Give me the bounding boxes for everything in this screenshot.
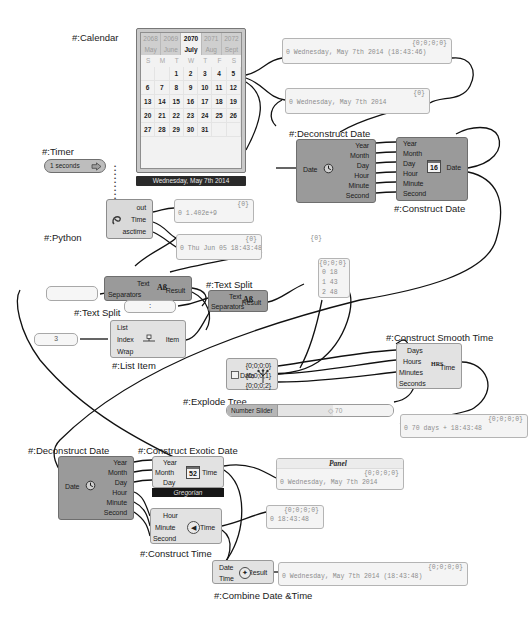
li-output-item[interactable]: Item	[166, 336, 179, 343]
explode-tree-node[interactable]: Data {0;0;0;0} {0;0;0;1} {0;0;0;2}	[226, 358, 278, 390]
ced-input-month[interactable]: Month	[155, 469, 174, 476]
cst-input-minutes[interactable]: Minutes	[399, 369, 423, 376]
deconstruct-date-bottom-node[interactable]: Date Year Month Day Hour Minute Second	[58, 456, 134, 520]
calendar-day-4[interactable]: 4	[212, 67, 226, 81]
calendar-day-12[interactable]: 12	[227, 81, 241, 95]
calendar-month-July[interactable]: July	[181, 44, 201, 55]
calendar-day-22[interactable]: 22	[170, 109, 184, 123]
ced-input-year[interactable]: Year	[163, 459, 177, 466]
ct-input-second[interactable]: Second	[153, 535, 176, 542]
ddb-output-day[interactable]: Day	[115, 479, 127, 486]
calendar-day-26[interactable]: 26	[227, 109, 241, 123]
calendar-day-27[interactable]: 27	[141, 123, 155, 137]
calendar-year-2072[interactable]: 2072	[222, 33, 241, 44]
list-item-node[interactable]: List Index Wrap Item	[110, 320, 186, 358]
cdt-input-time[interactable]: Time	[219, 575, 234, 582]
calendar-day-23[interactable]: 23	[184, 109, 198, 123]
calendar-month-June[interactable]: June	[161, 44, 181, 55]
ct-input-minute[interactable]: Minute	[155, 524, 175, 531]
calendar-day-17[interactable]: 17	[198, 95, 212, 109]
calendar-type-strip[interactable]: Gregorian	[152, 488, 224, 497]
number-slider-track[interactable]: ◇ 70	[278, 405, 393, 416]
calendar-day-2[interactable]: 2	[184, 67, 198, 81]
calendar-day-20[interactable]: 20	[141, 109, 155, 123]
calendar-year-2069[interactable]: 2069	[161, 33, 181, 44]
number-slider[interactable]: Number Slider ◇ 70	[226, 404, 394, 417]
grasshopper-canvas[interactable]: #:Calendar 20682069207020712072 MayJuneJ…	[0, 0, 531, 628]
cd-input-hour[interactable]: Hour	[403, 170, 418, 177]
et-output-2[interactable]: {0;0;0;2}	[246, 382, 271, 389]
calendar-day-13[interactable]: 13	[141, 95, 155, 109]
calendar-year-2071[interactable]: 2071	[202, 33, 222, 44]
calendar-day-9[interactable]: 9	[184, 81, 198, 95]
calendar-day-7[interactable]: 7	[155, 81, 169, 95]
li-input-wrap[interactable]: Wrap	[117, 348, 133, 355]
ddb-output-year[interactable]: Year	[113, 459, 127, 466]
li-input-index[interactable]: Index	[117, 336, 134, 343]
calendar-day-3[interactable]: 3	[198, 67, 212, 81]
panel-combined-datetime[interactable]: {0;0;0;0} 0 Wednesday, May 7th 2014 (18:…	[278, 562, 468, 586]
ddt-input-date[interactable]: Date	[303, 166, 317, 173]
ddt-output-second[interactable]: Second	[346, 192, 369, 199]
cd-input-minute[interactable]: Minute	[403, 180, 423, 187]
ts1-input-separators[interactable]: Separators	[108, 291, 141, 298]
ddt-output-year[interactable]: Year	[355, 142, 369, 149]
calendar-month-tabs[interactable]: MayJuneJulyAugSept	[141, 44, 241, 55]
calendar-day-29[interactable]: 29	[170, 123, 184, 137]
calendar-day-16[interactable]: 16	[184, 95, 198, 109]
calendar-widget[interactable]: 20682069207020712072 MayJuneJulyAugSept …	[136, 28, 246, 173]
li-input-list[interactable]: List	[117, 324, 128, 331]
cd-input-year[interactable]: Year	[403, 140, 417, 147]
ct-input-hour[interactable]: Hour	[163, 512, 178, 519]
ddb-input-date[interactable]: Date	[65, 483, 79, 490]
panel-date-top[interactable]: {0} 0 Wednesday, May 7th 2014	[285, 88, 430, 114]
python-output-out[interactable]: out	[137, 204, 146, 211]
calendar-day-1[interactable]: 1	[170, 67, 184, 81]
ddt-output-hour[interactable]: Hour	[354, 172, 369, 179]
timer-node[interactable]: 1 seconds	[44, 159, 106, 173]
calendar-day-19[interactable]: 19	[227, 95, 241, 109]
ddb-output-second[interactable]: Second	[104, 509, 127, 516]
calendar-day-10[interactable]: 10	[198, 81, 212, 95]
calendar-day-8[interactable]: 8	[170, 81, 184, 95]
calendar-day-15[interactable]: 15	[170, 95, 184, 109]
calendar-day-25[interactable]: 25	[212, 109, 226, 123]
ced-input-day[interactable]: Day	[163, 479, 175, 486]
ts2-input-separators[interactable]: Separators	[211, 303, 244, 310]
calendar-day-28[interactable]: 28	[155, 123, 169, 137]
calendar-day-24[interactable]: 24	[198, 109, 212, 123]
panel-python-asctime-wide[interactable]: {0}	[176, 234, 326, 260]
python-node[interactable]: out Time asctime	[106, 199, 153, 239]
empty-value-capsule[interactable]	[46, 286, 98, 301]
panel-python-time[interactable]: {0} 0 1.402e+9	[174, 199, 254, 223]
calendar-day-11[interactable]: 11	[212, 81, 226, 95]
calendar-year-2068[interactable]: 2068	[141, 33, 161, 44]
text-split-2-node[interactable]: Text Separators Result Aß	[208, 290, 268, 312]
construct-exotic-date-node[interactable]: Year Month Day Time 52	[152, 456, 224, 488]
calendar-day-31[interactable]: 31	[198, 123, 212, 137]
et-output-0[interactable]: {0;0;0;0}	[246, 362, 271, 369]
construct-date-node[interactable]: Year Month Day Hour Minute Second Date 1…	[396, 137, 468, 201]
ddt-output-day[interactable]: Day	[357, 162, 369, 169]
ddt-output-month[interactable]: Month	[350, 152, 369, 159]
construct-time-node[interactable]: Hour Minute Second Time ◀	[150, 508, 222, 544]
cd-input-day[interactable]: Day	[403, 160, 415, 167]
calendar-day-14[interactable]: 14	[155, 95, 169, 109]
construct-smooth-time-node[interactable]: Days Hours Minutes Seconds Time HRS	[396, 343, 462, 389]
ts1-output-result[interactable]: Result	[166, 287, 185, 294]
ced-output-time[interactable]: Time	[202, 469, 217, 476]
explode-tree-checkbox-icon[interactable]	[231, 371, 239, 379]
calendar-month-Aug[interactable]: Aug	[202, 44, 222, 55]
deconstruct-date-top-node[interactable]: Date Year Month Day Hour Minute Second	[296, 139, 376, 203]
cd-output-date[interactable]: Date	[447, 164, 461, 171]
ts1-input-text[interactable]: Text	[137, 280, 149, 287]
index-value-capsule[interactable]: 3	[34, 333, 78, 346]
ddb-output-hour[interactable]: Hour	[112, 489, 127, 496]
combine-date-time-node[interactable]: Date Time Result ✦	[212, 560, 274, 584]
ddt-output-minute[interactable]: Minute	[349, 182, 369, 189]
number-slider-handle[interactable]: ◇	[328, 407, 333, 414]
cst-input-hours[interactable]: Hours	[403, 358, 421, 365]
cd-input-month[interactable]: Month	[403, 150, 422, 157]
panel-smooth-time[interactable]: {0;0;0;0} 0 70 days + 18:43:48	[400, 414, 528, 438]
calendar-month-May[interactable]: May	[141, 44, 161, 55]
